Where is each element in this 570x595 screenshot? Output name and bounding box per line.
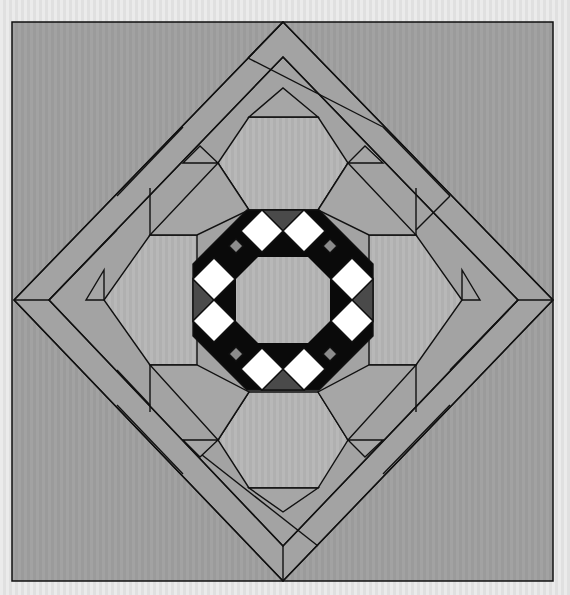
center-octagon <box>236 257 330 343</box>
quilt-diagram-svg <box>0 0 570 595</box>
center-ring <box>193 210 373 390</box>
quilt-diagram <box>0 0 570 595</box>
